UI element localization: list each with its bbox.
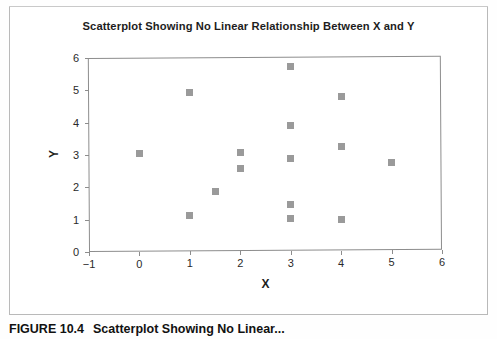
data-point bbox=[338, 93, 345, 100]
y-tick-mark bbox=[85, 155, 89, 156]
figure-caption-label: FIGURE 10.4 bbox=[9, 322, 84, 336]
y-tick-mark bbox=[85, 58, 89, 59]
data-point bbox=[338, 143, 345, 150]
data-point bbox=[287, 63, 294, 70]
x-tick-label: −1 bbox=[83, 258, 96, 270]
y-tick-label: 0 bbox=[73, 246, 79, 258]
chart-title: Scatterplot Showing No Linear Relationsh… bbox=[0, 20, 497, 32]
x-tick-mark bbox=[240, 251, 241, 255]
y-tick-label: 4 bbox=[73, 117, 79, 129]
x-tick-label: 5 bbox=[389, 256, 395, 268]
data-point bbox=[287, 155, 294, 162]
data-point bbox=[388, 159, 395, 166]
x-tick-mark bbox=[392, 250, 393, 254]
y-tick-mark bbox=[85, 90, 89, 91]
y-tick-mark bbox=[85, 123, 89, 124]
data-point bbox=[287, 122, 294, 129]
x-tick-label: 3 bbox=[288, 257, 294, 269]
x-tick-mark bbox=[442, 250, 443, 254]
data-point bbox=[186, 89, 193, 96]
figure-caption: FIGURE 10.4Scatterplot Showing No Linear… bbox=[9, 322, 429, 339]
data-point bbox=[136, 150, 143, 157]
x-tick-label: 0 bbox=[136, 258, 142, 270]
scanned-page: Scatterplot Showing No Linear Relationsh… bbox=[0, 0, 497, 339]
x-tick-mark bbox=[139, 252, 140, 256]
x-axis-label: X bbox=[89, 277, 442, 291]
y-axis-label: Y bbox=[47, 150, 61, 158]
y-tick-label: 3 bbox=[73, 149, 79, 161]
data-point bbox=[237, 165, 244, 172]
data-point bbox=[237, 149, 244, 156]
y-tick-mark bbox=[85, 220, 89, 221]
data-point bbox=[287, 215, 294, 222]
x-tick-label: 2 bbox=[237, 257, 243, 269]
y-tick-label: 5 bbox=[73, 84, 79, 96]
y-tick-label: 6 bbox=[73, 52, 79, 64]
figure-caption-text: Scatterplot Showing No Linear... bbox=[93, 322, 285, 336]
data-point bbox=[338, 216, 345, 223]
y-tick-mark bbox=[85, 252, 89, 253]
data-point bbox=[186, 212, 193, 219]
x-tick-mark bbox=[341, 251, 342, 255]
scatterplot-plot-area: −10123456 0123456 bbox=[89, 58, 442, 252]
y-tick-mark bbox=[85, 187, 89, 188]
data-point bbox=[287, 201, 294, 208]
x-tick-label: 4 bbox=[338, 257, 344, 269]
data-point bbox=[212, 188, 219, 195]
x-tick-mark bbox=[190, 251, 191, 255]
x-tick-mark bbox=[291, 251, 292, 255]
x-tick-mark bbox=[89, 252, 90, 256]
x-tick-label: 1 bbox=[187, 257, 193, 269]
x-tick-label: 6 bbox=[439, 256, 445, 268]
y-tick-label: 2 bbox=[73, 181, 79, 193]
y-tick-label: 1 bbox=[73, 214, 79, 226]
